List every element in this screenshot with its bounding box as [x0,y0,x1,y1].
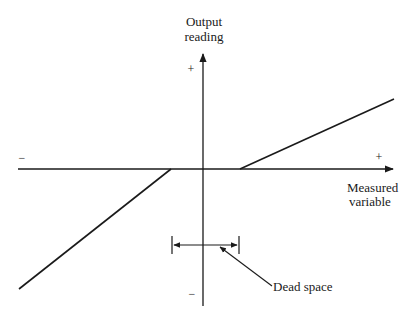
dead-space-diagram: Output reading + − − + Measured variable… [0,0,414,324]
y-axis-label-line2: reading [185,29,224,44]
y-axis-minus-label: − [189,287,196,301]
upper-characteristic-line [240,99,394,169]
x-axis-plus-label: + [376,150,383,164]
x-axis-label-line1: Measured [347,180,399,195]
x-axis-minus-label: − [19,151,26,165]
x-axis-label-line2: variable [349,194,391,209]
y-axis-label-line1: Output [186,14,223,29]
dead-space-label: Dead space [273,279,333,294]
y-axis-plus-label: + [188,62,195,76]
dead-space-pointer [220,247,272,286]
lower-characteristic-line [19,169,171,289]
